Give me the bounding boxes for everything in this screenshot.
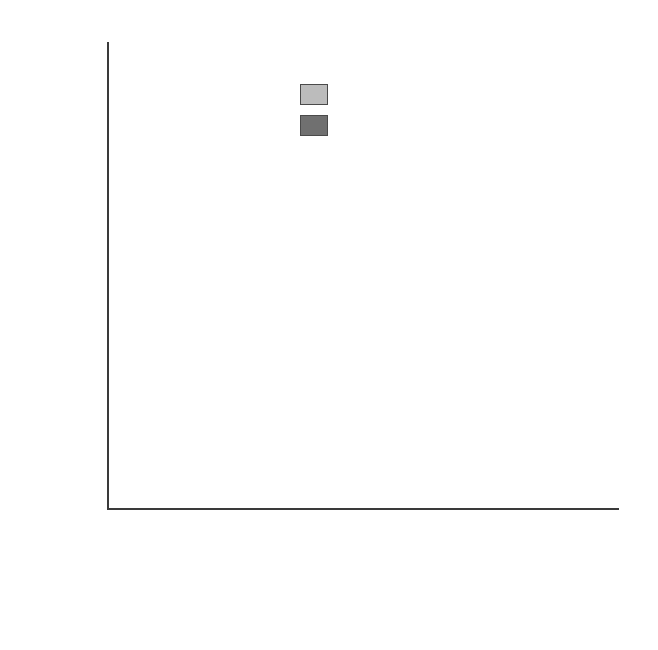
bars-group xyxy=(108,42,618,508)
legend-item-financial-services xyxy=(300,84,342,105)
x-axis-line xyxy=(107,508,619,510)
legend-item-business-services xyxy=(300,115,342,136)
chart-legend xyxy=(300,84,342,146)
stacked-bar-chart xyxy=(0,0,658,650)
legend-swatch-financial-services-icon xyxy=(300,84,328,105)
legend-swatch-business-services-icon xyxy=(300,115,328,136)
